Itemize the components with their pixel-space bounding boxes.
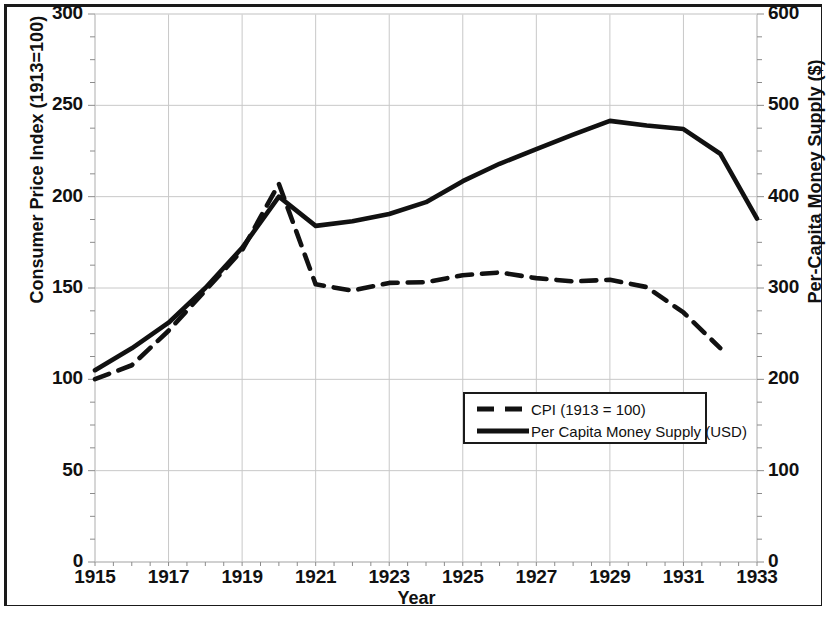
right-tick-label: 400 <box>768 185 799 207</box>
legend-swatch-solid <box>473 420 531 442</box>
chart-legend: CPI (1913 = 100) Per Capita Money Supply… <box>463 392 707 444</box>
legend-label-cpi: CPI (1913 = 100) <box>531 401 646 418</box>
plot-canvas <box>0 0 833 617</box>
legend-label-money-supply: Per Capita Money Supply (USD) <box>531 423 747 440</box>
x-tick-label: 1933 <box>712 566 802 588</box>
left-axis-ticks <box>88 14 95 562</box>
right-tick-label: 200 <box>768 367 799 389</box>
right-tick-label: 300 <box>768 276 799 298</box>
right-tick-label: 100 <box>768 459 799 481</box>
right-axis-ticks <box>757 14 764 562</box>
legend-item-money-supply: Per Capita Money Supply (USD) <box>473 420 699 442</box>
legend-item-cpi: CPI (1913 = 100) <box>473 398 699 420</box>
legend-swatch-dashed <box>473 398 531 420</box>
left-axis-title: Consumer Price Index (1913=100) <box>27 74 48 304</box>
left-tick-label: 100 <box>0 367 83 389</box>
right-tick-label: 600 <box>768 2 799 24</box>
left-tick-label: 50 <box>0 459 83 481</box>
chart-figure: 050100150200250300 0100200300400500600 1… <box>0 0 833 617</box>
right-axis-title: Per-Capita Money Supply ($) <box>805 74 826 304</box>
right-tick-label: 500 <box>768 93 799 115</box>
x-axis-title: Year <box>0 588 833 609</box>
